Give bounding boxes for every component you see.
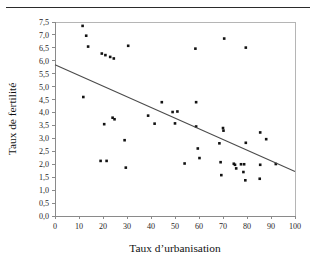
y-tick-label: 2,0 [39, 160, 49, 169]
y-tick-label: 6,0 [39, 57, 49, 66]
data-point [240, 163, 243, 166]
plot-frame [55, 22, 295, 216]
y-tick-label: 3,5 [39, 121, 49, 130]
y-tick-label: 3,0 [39, 134, 49, 143]
y-axis-ticks: 0,00,51,01,52,02,53,03,54,04,55,05,56,06… [39, 18, 55, 221]
y-tick-label: 5,0 [39, 83, 49, 92]
data-point [245, 141, 248, 144]
scatter-chart-figure: 0,00,51,01,52,02,53,03,54,04,55,05,56,06… [0, 12, 316, 260]
x-tick-label: 40 [147, 222, 155, 231]
x-tick-label: 90 [267, 222, 275, 231]
data-point [82, 96, 85, 99]
x-tick-label: 50 [171, 222, 179, 231]
data-point [244, 179, 247, 182]
data-point [242, 171, 245, 174]
data-point [87, 45, 90, 48]
x-tick-label: 80 [243, 222, 251, 231]
data-point [222, 129, 225, 132]
page-header-rule [6, 7, 310, 8]
x-axis-title: Taux d’urbanisation [129, 242, 221, 254]
y-tick-label: 7,5 [39, 18, 49, 27]
data-point [259, 131, 262, 134]
figure-page: 0,00,51,01,52,02,53,03,54,04,55,05,56,06… [0, 0, 316, 260]
data-point [198, 157, 201, 160]
y-tick-label: 1,5 [39, 173, 49, 182]
data-point [101, 52, 104, 55]
data-point [234, 163, 237, 166]
x-axis-ticks: 0102030405060708090100 [53, 216, 301, 231]
data-point [147, 114, 150, 117]
scatter-chart-svg: 0,00,51,01,52,02,53,03,54,04,55,05,56,06… [0, 12, 316, 260]
y-tick-label: 0,5 [39, 199, 49, 208]
x-tick-label: 70 [219, 222, 227, 231]
data-point [194, 47, 197, 50]
data-point [235, 167, 238, 170]
x-tick-label: 100 [289, 222, 301, 231]
data-point [223, 37, 226, 40]
y-tick-label: 5,5 [39, 70, 49, 79]
data-point [176, 110, 179, 113]
data-point [113, 57, 116, 60]
x-tick-label: 20 [99, 222, 107, 231]
data-point [81, 25, 84, 28]
y-tick-label: 2,5 [39, 147, 49, 156]
y-tick-label: 4,5 [39, 96, 49, 105]
data-point [85, 34, 88, 37]
data-point [171, 111, 174, 114]
data-point [183, 162, 186, 165]
data-point [153, 122, 156, 125]
data-point [219, 161, 222, 164]
y-tick-label: 0,0 [39, 212, 49, 221]
data-point [105, 160, 108, 163]
regression-trendline [55, 65, 295, 172]
data-point-series [81, 25, 277, 182]
data-point [113, 118, 116, 121]
y-tick-label: 7,0 [39, 31, 49, 40]
y-axis-title: Taux de fertilité [6, 83, 18, 156]
data-point [104, 54, 107, 57]
data-point [195, 101, 198, 104]
data-point [218, 142, 221, 145]
data-point [197, 147, 200, 150]
x-tick-label: 60 [195, 222, 203, 231]
data-point [99, 160, 102, 163]
y-tick-label: 1,0 [39, 186, 49, 195]
data-point [245, 46, 248, 49]
data-point [103, 123, 106, 126]
data-point [109, 56, 112, 59]
data-point [220, 174, 223, 177]
data-point [222, 127, 225, 130]
data-point [125, 166, 128, 169]
y-tick-label: 4,0 [39, 108, 49, 117]
x-tick-label: 0 [53, 222, 57, 231]
data-point [258, 177, 261, 180]
data-point [127, 44, 130, 47]
data-point [243, 163, 246, 166]
x-tick-label: 30 [123, 222, 131, 231]
data-point [265, 138, 268, 141]
data-point [161, 101, 164, 104]
data-point [174, 122, 177, 125]
x-tick-label: 10 [75, 222, 83, 231]
data-point [259, 163, 262, 166]
data-point [123, 139, 126, 142]
y-tick-label: 6,5 [39, 44, 49, 53]
